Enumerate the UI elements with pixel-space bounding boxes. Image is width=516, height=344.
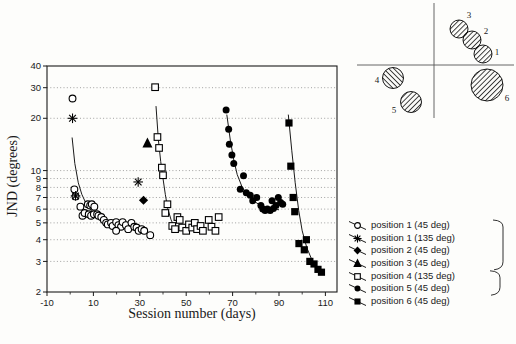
y-tick-label: 3 bbox=[36, 256, 41, 267]
legend-label: position 1 (135 deg) bbox=[371, 232, 455, 245]
legend-label: position 3 (45 deg) bbox=[371, 257, 450, 270]
legend-label: position 1 (45 deg) bbox=[371, 219, 450, 232]
inset-circle-label: 4 bbox=[375, 75, 380, 85]
y-tick-label: 5 bbox=[36, 217, 41, 228]
legend-label: position 5 (45 deg) bbox=[371, 282, 450, 295]
legend-item-position-1-45: position 1 (45 deg) bbox=[347, 219, 507, 232]
filled-triangle-icon bbox=[347, 257, 371, 270]
legend-label: position 4 (135 deg) bbox=[371, 270, 455, 283]
inset-circle-label: 3 bbox=[467, 10, 472, 20]
filled-diamond-icon bbox=[347, 244, 371, 257]
gridlines bbox=[47, 88, 337, 262]
y-tick-label: 7 bbox=[36, 192, 41, 203]
legend-item-position-4-135: position 4 (135 deg) bbox=[347, 270, 507, 283]
y-tick-label: 4 bbox=[36, 234, 41, 245]
series-position-1-45-deg- bbox=[69, 95, 154, 238]
inset-circle-5 bbox=[401, 92, 422, 113]
inset-circle-1 bbox=[474, 45, 492, 63]
y-axis-title: JND (degrees) bbox=[5, 76, 21, 276]
series-position-4-135-deg- bbox=[152, 84, 222, 234]
inset-position-diagram: 321456 bbox=[357, 3, 514, 118]
y-tick-label: 2 bbox=[36, 286, 41, 297]
open-circle-icon bbox=[347, 219, 371, 232]
series-position-3-45-deg- bbox=[142, 138, 152, 148]
legend-item-position-5-45: position 5 (45 deg) bbox=[347, 282, 507, 295]
y-tick-label: 6 bbox=[36, 203, 41, 214]
legend-label: position 6 (45 deg) bbox=[371, 295, 450, 308]
legend-item-position-3-45: position 3 (45 deg) bbox=[347, 257, 507, 270]
asterisk-icon bbox=[347, 232, 371, 245]
y-tick-label: 20 bbox=[30, 112, 41, 123]
legend: position 1 (45 deg) position 1 (135 deg)… bbox=[347, 219, 507, 308]
inset-circle-label: 2 bbox=[484, 26, 489, 36]
inset-circle-label: 6 bbox=[505, 93, 510, 103]
y-tick-label: 30 bbox=[30, 82, 41, 93]
inset-circle-label: 1 bbox=[495, 47, 500, 57]
inset-circle-label: 5 bbox=[392, 105, 397, 115]
open-square-icon bbox=[347, 270, 371, 283]
filled-square-icon bbox=[347, 295, 371, 308]
y-tick-label: 40 bbox=[30, 60, 41, 71]
legend-label: position 2 (45 deg) bbox=[371, 244, 450, 257]
inset-circle-4 bbox=[383, 68, 404, 89]
filled-circle-icon bbox=[347, 282, 371, 295]
series-position-1-135-deg- bbox=[68, 113, 143, 200]
figure-jnd-learning-curves: -1010305070901104030201098765432321456 J… bbox=[0, 0, 516, 344]
series-position-2-45-deg- bbox=[139, 196, 148, 205]
legend-item-position-6-45: position 6 (45 deg) bbox=[347, 295, 507, 308]
x-axis-title: Session number (days) bbox=[47, 306, 337, 322]
legend-item-position-2-45: position 2 (45 deg) bbox=[347, 244, 507, 257]
plot-frame bbox=[47, 66, 337, 292]
legend-item-position-1-135: position 1 (135 deg) bbox=[347, 232, 507, 245]
inset-circle-6 bbox=[471, 69, 503, 101]
